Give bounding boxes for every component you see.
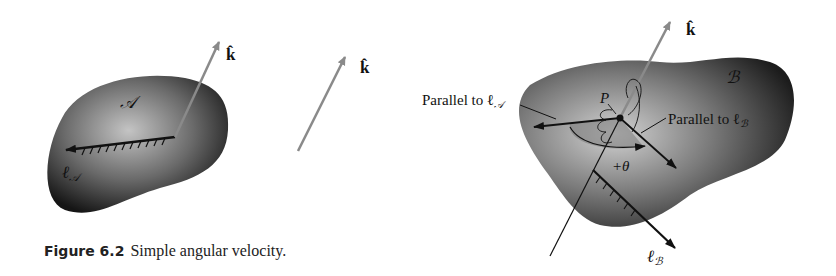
figure-caption: Figure 6.2Simple angular velocity. bbox=[44, 242, 286, 260]
point-p bbox=[617, 115, 624, 122]
label-k-left: k̂ bbox=[226, 45, 236, 64]
body-a bbox=[47, 76, 228, 213]
body-b bbox=[519, 57, 794, 226]
unit-vector-k-middle bbox=[298, 57, 345, 151]
label-k-middle: k̂ bbox=[360, 58, 370, 77]
figure-number: Figure 6.2 bbox=[44, 243, 124, 259]
label-parallel-to-l-a: Parallel to ℓ𝒜 bbox=[422, 92, 507, 110]
figure-caption-text: Simple angular velocity. bbox=[130, 242, 286, 259]
label-point-p: P bbox=[599, 90, 609, 106]
label-angle-theta: +θ bbox=[612, 158, 630, 174]
label-k-right: k̂ bbox=[686, 20, 696, 39]
label-l-b: ℓℬ bbox=[647, 246, 664, 268]
label-body-b: ℬ bbox=[726, 67, 741, 87]
label-parallel-to-l-b: Parallel to ℓℬ bbox=[668, 111, 749, 129]
angular-velocity-diagram: 𝒜 k̂ ℓ𝒜 k̂ ℬ k̂ bbox=[0, 0, 836, 276]
